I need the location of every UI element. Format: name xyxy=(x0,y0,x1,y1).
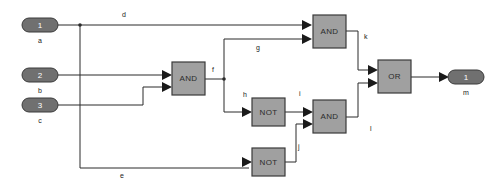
wire-label-i: i xyxy=(299,90,301,97)
junction-a xyxy=(78,23,82,27)
terminal-label-a: a xyxy=(38,37,42,44)
wire-label-k: k xyxy=(364,33,368,40)
wire-layer xyxy=(58,23,445,168)
gate-or[interactable]: OR xyxy=(378,60,411,93)
gate-type-label: AND xyxy=(321,112,339,121)
wire-l xyxy=(346,83,375,117)
terminal-label-b: b xyxy=(38,87,42,94)
terminal-number: 3 xyxy=(38,101,43,110)
terminal-number: 1 xyxy=(38,21,43,30)
wire-label-l: l xyxy=(370,125,372,132)
arrow-into-and-top-lower xyxy=(302,34,312,44)
gate-type-label: AND xyxy=(180,74,198,83)
logic-circuit-diagram: 1 a 2 b 3 c 1 m AND AND NOT NOT AND xyxy=(0,0,496,191)
arrow-into-not-2 xyxy=(242,157,252,167)
wire-g xyxy=(224,39,310,79)
gate-type-label: NOT xyxy=(260,108,278,117)
gate-and-top[interactable]: AND xyxy=(313,15,346,48)
arrow-into-and-bottom-lower xyxy=(303,119,313,129)
gate-and-1[interactable]: AND xyxy=(172,62,205,95)
terminal-number: 1 xyxy=(464,73,469,82)
wire-c-to-and-1 xyxy=(58,87,169,105)
terminal-label-c: c xyxy=(38,117,42,124)
wire-label-e: e xyxy=(120,172,124,179)
wire-label-j: j xyxy=(297,143,300,151)
arrow-into-and-bottom-upper xyxy=(303,107,313,117)
input-terminal-b[interactable]: 2 b xyxy=(22,68,58,94)
junction-f xyxy=(222,77,226,81)
input-terminal-c[interactable]: 3 c xyxy=(22,98,58,124)
gate-and-bottom[interactable]: AND xyxy=(313,100,346,133)
terminal-number: 2 xyxy=(38,71,43,80)
arrow-into-or-upper xyxy=(368,65,378,75)
wire-label-f: f xyxy=(212,66,214,73)
wire-label-h: h xyxy=(243,91,247,98)
arrow-into-and-top-upper xyxy=(302,20,312,30)
input-terminal-a[interactable]: 1 a xyxy=(22,18,58,44)
wire-label-d: d xyxy=(122,11,126,18)
gate-type-label: OR xyxy=(388,72,401,81)
wire-label-g: g xyxy=(256,44,260,52)
gate-type-label: NOT xyxy=(260,158,278,167)
gate-type-label: AND xyxy=(321,27,339,36)
arrow-into-and-1-lower xyxy=(162,82,172,92)
gate-not-2[interactable]: NOT xyxy=(252,148,285,176)
output-terminal-m[interactable]: 1 m xyxy=(448,70,484,96)
arrow-into-not-1 xyxy=(242,107,252,117)
terminal-label-m: m xyxy=(463,89,469,96)
arrow-into-and-1-upper xyxy=(162,70,172,80)
wire-k xyxy=(346,31,375,70)
gate-not-1[interactable]: NOT xyxy=(252,98,285,126)
arrow-into-or-lower xyxy=(368,78,378,88)
